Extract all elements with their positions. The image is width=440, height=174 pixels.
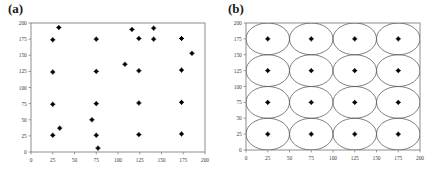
y-tick-label: 100 — [234, 84, 242, 90]
data-point-marker-v — [138, 132, 139, 137]
y-tick-label: 0 — [239, 147, 242, 153]
y-tick-label: 50 — [21, 117, 27, 123]
x-tick-label: 175 — [394, 155, 402, 161]
data-point-marker-v — [181, 36, 182, 41]
data-point-marker-v — [181, 100, 182, 105]
y-tick-label: 25 — [21, 133, 27, 139]
data-point-marker-v — [191, 51, 192, 56]
data-point-marker-v — [181, 131, 182, 136]
data-point-marker-v — [354, 68, 355, 73]
data-point-marker-v — [91, 117, 92, 122]
data-point-marker-v — [96, 101, 97, 106]
x-tick-label: 25 — [265, 155, 271, 161]
data-point-marker-v — [354, 132, 355, 137]
data-point-marker-v — [52, 37, 53, 42]
y-tick-label: 200 — [19, 20, 27, 26]
data-point-marker-v — [267, 100, 268, 105]
data-point-marker-v — [153, 26, 154, 31]
x-tick-label: 125 — [136, 157, 144, 163]
y-tick-label: 100 — [19, 85, 27, 91]
data-point-marker-v — [96, 69, 97, 74]
data-point-marker-v — [124, 62, 125, 67]
y-tick-label: 0 — [24, 149, 27, 155]
scatter-plot-b: 0255075100125150175200025507510012515017… — [220, 0, 440, 174]
x-tick-label: 0 — [30, 157, 33, 163]
x-tick-label: 75 — [309, 155, 315, 161]
panel-b: (b) 025507510012515017520002550751001251… — [220, 0, 440, 174]
y-tick-label: 150 — [19, 52, 27, 58]
data-point-marker-v — [97, 146, 98, 151]
data-point-marker-v — [181, 68, 182, 73]
y-tick-label: 200 — [234, 20, 242, 26]
x-tick-label: 150 — [157, 157, 165, 163]
data-point-marker-v — [311, 36, 312, 41]
panel-a: (a) 025507510012515017520002550751001251… — [0, 0, 220, 174]
y-tick-label: 25 — [236, 131, 242, 137]
data-point-marker-v — [138, 36, 139, 41]
data-point-marker-v — [138, 68, 139, 73]
scatter-plot-a: 0255075100125150175200025507510012515017… — [0, 0, 220, 174]
x-tick-label: 200 — [416, 155, 424, 161]
x-tick-label: 50 — [72, 157, 78, 163]
x-tick-label: 75 — [94, 157, 100, 163]
data-point-marker-v — [96, 37, 97, 42]
data-point-marker-v — [96, 133, 97, 138]
x-tick-label: 0 — [245, 155, 248, 161]
data-point-marker-v — [398, 68, 399, 73]
y-tick-label: 175 — [234, 36, 242, 42]
data-point-marker-v — [59, 126, 60, 131]
data-point-marker-v — [354, 100, 355, 105]
data-point-marker-v — [398, 36, 399, 41]
data-point-marker-v — [153, 37, 154, 42]
x-tick-label: 50 — [287, 155, 293, 161]
x-tick-label: 150 — [372, 155, 380, 161]
data-point-marker-v — [267, 132, 268, 137]
x-tick-label: 100 — [114, 157, 122, 163]
y-tick-label: 125 — [19, 68, 27, 74]
data-point-marker-v — [52, 133, 53, 138]
x-tick-label: 175 — [179, 157, 187, 163]
data-point-marker-v — [267, 68, 268, 73]
x-tick-label: 100 — [329, 155, 337, 161]
data-point-marker-v — [311, 100, 312, 105]
x-tick-label: 125 — [351, 155, 359, 161]
y-tick-label: 75 — [21, 101, 27, 107]
y-tick-label: 175 — [19, 36, 27, 42]
y-tick-label: 150 — [234, 52, 242, 58]
y-tick-label: 50 — [236, 115, 242, 121]
data-point-marker-v — [267, 36, 268, 41]
data-point-marker-v — [354, 36, 355, 41]
data-point-marker-v — [52, 102, 53, 107]
y-tick-label: 125 — [234, 68, 242, 74]
data-point-marker-v — [58, 25, 59, 30]
figure-container: (a) 025507510012515017520002550751001251… — [0, 0, 440, 174]
data-point-marker-v — [311, 132, 312, 137]
data-point-marker-v — [138, 100, 139, 105]
plot-frame — [31, 23, 205, 152]
data-point-marker-v — [52, 70, 53, 75]
x-tick-label: 25 — [50, 157, 56, 163]
y-tick-label: 75 — [236, 99, 242, 105]
data-point-marker-v — [398, 100, 399, 105]
x-tick-label: 200 — [201, 157, 209, 163]
data-point-marker-v — [398, 132, 399, 137]
data-point-marker-v — [131, 27, 132, 32]
data-point-marker-v — [311, 68, 312, 73]
